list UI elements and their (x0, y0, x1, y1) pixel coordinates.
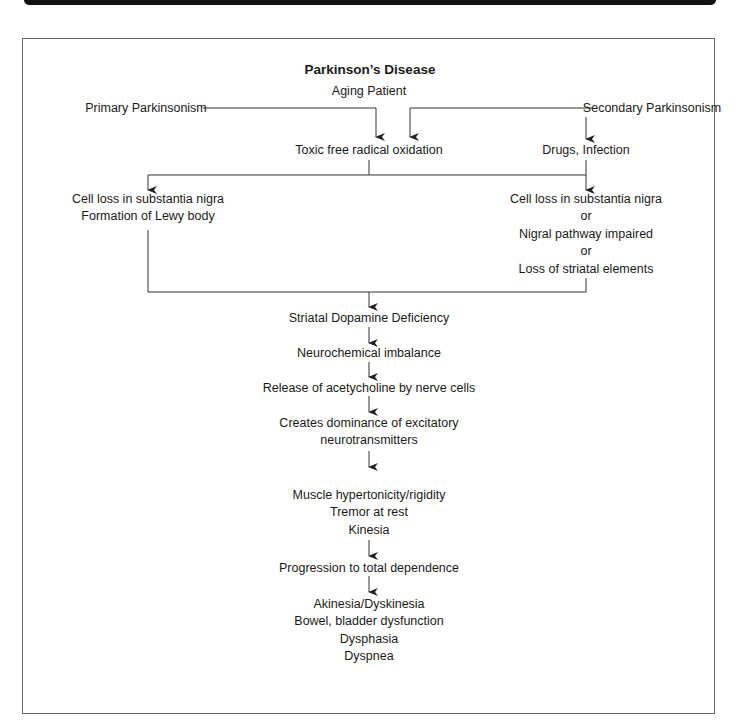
node-progression: Progression to total dependence (279, 560, 459, 577)
node-right-branch: Cell loss in substantia nigra or Nigral … (510, 191, 662, 278)
node-primary-parkinsonism: Primary Parkinsonism (85, 100, 207, 117)
final-line: Akinesia/Dyskinesia (294, 596, 443, 613)
node-drugs-infection: Drugs, Infection (542, 142, 630, 159)
node-final-outcomes: Akinesia/Dyskinesia Bowel, bladder dysfu… (294, 596, 443, 666)
left-branch-line: Formation of Lewy body (72, 208, 224, 225)
right-branch-line: Nigral pathway impaired (510, 226, 662, 243)
node-dominance: Creates dominance of excitatory neurotra… (279, 415, 458, 450)
node-neurochemical: Neurochemical imbalance (297, 345, 441, 362)
symptom-line: Muscle hypertonicity/rigidity (293, 487, 446, 504)
node-symptoms: Muscle hypertonicity/rigidity Tremor at … (293, 487, 446, 539)
diagram-title: Parkinson’s Disease (305, 61, 436, 78)
right-branch-line: or (510, 208, 662, 225)
node-striatal-dopamine: Striatal Dopamine Deficiency (289, 310, 450, 327)
right-branch-line: Loss of striatal elements (510, 261, 662, 278)
symptom-line: Kinesia (293, 522, 446, 539)
right-branch-line: Cell loss in substantia nigra (510, 191, 662, 208)
final-line: Bowel, bladder dysfunction (294, 613, 443, 630)
right-branch-line: or (510, 243, 662, 260)
node-release-acetycholine: Release of acetycholine by nerve cells (263, 380, 476, 397)
final-line: Dysphasia (294, 631, 443, 648)
node-aging-patient: Aging Patient (332, 83, 406, 100)
dominance-line: neurotransmitters (279, 432, 458, 449)
node-secondary-parkinsonism: Secondary Parkinsonism (583, 100, 721, 117)
dominance-line: Creates dominance of excitatory (279, 415, 458, 432)
left-branch-line: Cell loss in substantia nigra (72, 191, 224, 208)
symptom-line: Tremor at rest (293, 504, 446, 521)
final-line: Dyspnea (294, 648, 443, 665)
node-toxic-oxidation: Toxic free radical oxidation (295, 142, 442, 159)
node-left-branch: Cell loss in substantia nigra Formation … (72, 191, 224, 226)
